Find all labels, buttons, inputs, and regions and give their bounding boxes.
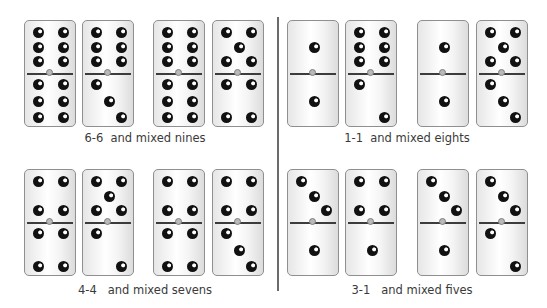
domino-half-bottom bbox=[418, 75, 468, 127]
pip-icon bbox=[33, 96, 44, 107]
pip-icon bbox=[58, 56, 69, 67]
domino-half-bottom bbox=[213, 224, 263, 276]
pip-icon bbox=[439, 245, 450, 256]
pip-icon bbox=[510, 27, 521, 38]
caption-mixed-nines: 6-6 and mixed nines bbox=[75, 131, 215, 145]
caption-mixed-eights: 1-1 and mixed eights bbox=[337, 131, 477, 145]
pip-icon bbox=[379, 56, 390, 67]
pip-icon bbox=[91, 56, 102, 67]
pip-icon bbox=[91, 27, 102, 38]
domino-4-4 bbox=[24, 169, 76, 276]
pip-icon bbox=[246, 27, 257, 38]
pip-icon bbox=[162, 79, 173, 90]
pip-icon bbox=[91, 42, 102, 53]
domino-spinner-icon bbox=[46, 69, 53, 76]
pip-icon bbox=[246, 56, 257, 67]
pip-icon bbox=[58, 228, 69, 239]
domino-half-top bbox=[83, 170, 133, 222]
pip-icon bbox=[162, 205, 173, 216]
domino-6-6 bbox=[24, 20, 76, 127]
pip-icon bbox=[104, 191, 115, 202]
pip-icon bbox=[246, 205, 257, 216]
pip-icon bbox=[33, 42, 44, 53]
pip-icon bbox=[187, 112, 198, 123]
pip-icon bbox=[91, 228, 102, 239]
pip-icon bbox=[162, 96, 173, 107]
pip-icon bbox=[58, 96, 69, 107]
domino-half-top bbox=[288, 170, 338, 222]
pip-icon bbox=[426, 176, 437, 187]
domino-spinner-icon bbox=[104, 69, 111, 76]
domino-half-bottom bbox=[418, 224, 468, 276]
section-divider bbox=[277, 17, 279, 291]
pip-icon bbox=[116, 27, 127, 38]
domino-half-top bbox=[477, 21, 527, 73]
domino-half-top bbox=[213, 170, 263, 222]
pip-icon bbox=[104, 96, 115, 107]
pip-icon bbox=[162, 176, 173, 187]
domino-spinner-icon bbox=[439, 69, 446, 76]
pip-icon bbox=[234, 245, 245, 256]
pip-icon bbox=[485, 27, 496, 38]
pip-icon bbox=[498, 96, 509, 107]
pip-icon bbox=[485, 176, 496, 187]
domino-half-top bbox=[418, 170, 468, 222]
pip-icon bbox=[221, 228, 232, 239]
domino-half-bottom bbox=[213, 75, 263, 127]
pip-icon bbox=[116, 56, 127, 67]
caption-mixed-fives: 3-1 and mixed fives bbox=[342, 283, 482, 297]
domino-spinner-icon bbox=[367, 218, 374, 225]
domino-6-3 bbox=[82, 20, 134, 127]
pip-icon bbox=[510, 56, 521, 67]
pip-icon bbox=[116, 42, 127, 53]
domino-3-1 bbox=[287, 169, 339, 276]
pip-icon bbox=[309, 96, 320, 107]
domino-spinner-icon bbox=[309, 218, 316, 225]
pip-icon bbox=[510, 261, 521, 272]
domino-3-1 bbox=[417, 169, 469, 276]
pip-icon bbox=[116, 176, 127, 187]
pip-icon bbox=[91, 176, 102, 187]
pip-icon bbox=[309, 245, 320, 256]
pip-icon bbox=[379, 42, 390, 53]
domino-spinner-icon bbox=[234, 218, 241, 225]
pip-icon bbox=[187, 96, 198, 107]
pip-icon bbox=[33, 176, 44, 187]
pip-icon bbox=[33, 27, 44, 38]
domino-half-top bbox=[154, 170, 204, 222]
pip-icon bbox=[58, 27, 69, 38]
domino-spinner-icon bbox=[175, 69, 182, 76]
pip-icon bbox=[439, 96, 450, 107]
pip-icon bbox=[379, 176, 390, 187]
domino-half-top bbox=[25, 21, 75, 73]
domino-spinner-icon bbox=[104, 218, 111, 225]
domino-spinner-icon bbox=[439, 218, 446, 225]
pip-icon bbox=[296, 176, 307, 187]
pip-icon bbox=[33, 56, 44, 67]
domino-1-1 bbox=[287, 20, 339, 127]
domino-half-bottom bbox=[25, 224, 75, 276]
pip-icon bbox=[187, 42, 198, 53]
pip-icon bbox=[162, 228, 173, 239]
domino-spinner-icon bbox=[46, 218, 53, 225]
pip-icon bbox=[187, 56, 198, 67]
pip-icon bbox=[33, 228, 44, 239]
pip-icon bbox=[58, 205, 69, 216]
pip-icon bbox=[379, 112, 390, 123]
pip-icon bbox=[91, 79, 102, 90]
domino-half-bottom bbox=[346, 75, 396, 127]
pip-icon bbox=[498, 191, 509, 202]
pip-icon bbox=[485, 228, 496, 239]
domino-half-top bbox=[346, 170, 396, 222]
domino-spinner-icon bbox=[498, 69, 505, 76]
pip-icon bbox=[187, 228, 198, 239]
pip-icon bbox=[246, 176, 257, 187]
pip-icon bbox=[367, 245, 378, 256]
pip-icon bbox=[162, 56, 173, 67]
caption-mixed-sevens: 4-4 and mixed sevens bbox=[70, 283, 220, 297]
pip-icon bbox=[187, 27, 198, 38]
pip-icon bbox=[33, 261, 44, 272]
domino-5-2 bbox=[82, 169, 134, 276]
pip-icon bbox=[354, 56, 365, 67]
pip-icon bbox=[33, 205, 44, 216]
